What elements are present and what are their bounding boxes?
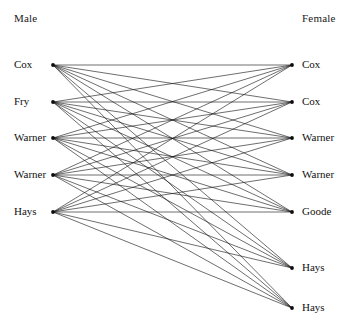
graph-node-left: [51, 173, 55, 177]
left-node-label-4: Hays: [14, 206, 37, 217]
column-header-female: Female: [302, 12, 336, 24]
graph-edge: [53, 138, 292, 308]
left-node-label-3: Warner: [14, 169, 46, 180]
graph-node-right: [290, 63, 294, 67]
graph-node-left: [51, 100, 55, 104]
left-node-label-2: Warner: [14, 132, 46, 143]
graph-node-left: [51, 63, 55, 67]
graph-node-right: [290, 306, 294, 310]
graph-edge: [53, 138, 292, 268]
right-node-label-3: Warner: [302, 169, 334, 180]
right-node-label-0: Cox: [302, 59, 320, 70]
graph-node-right: [290, 266, 294, 270]
graph-node-left: [51, 210, 55, 214]
column-header-male: Male: [14, 12, 37, 24]
graph-edge: [53, 175, 292, 308]
left-node-label-0: Cox: [14, 59, 32, 70]
graph-node-right: [290, 173, 294, 177]
graph-edge: [53, 65, 292, 268]
graph-canvas: [0, 0, 344, 325]
right-node-label-1: Cox: [302, 96, 320, 107]
right-node-label-5: Hays: [302, 262, 325, 273]
graph-edge: [53, 212, 292, 308]
right-node-label-6: Hays: [302, 302, 325, 313]
left-node-label-1: Fry: [14, 96, 29, 107]
edges-group: [53, 65, 292, 308]
right-node-label-2: Warner: [302, 132, 334, 143]
graph-node-right: [290, 210, 294, 214]
graph-node-left: [51, 136, 55, 140]
graph-node-right: [290, 136, 294, 140]
bipartite-graph-figure: Male Female CoxFryWarnerWarnerHays CoxCo…: [0, 0, 344, 325]
right-node-label-4: Goode: [302, 206, 331, 217]
graph-edge: [53, 212, 292, 268]
graph-node-right: [290, 100, 294, 104]
graph-edge: [53, 175, 292, 268]
